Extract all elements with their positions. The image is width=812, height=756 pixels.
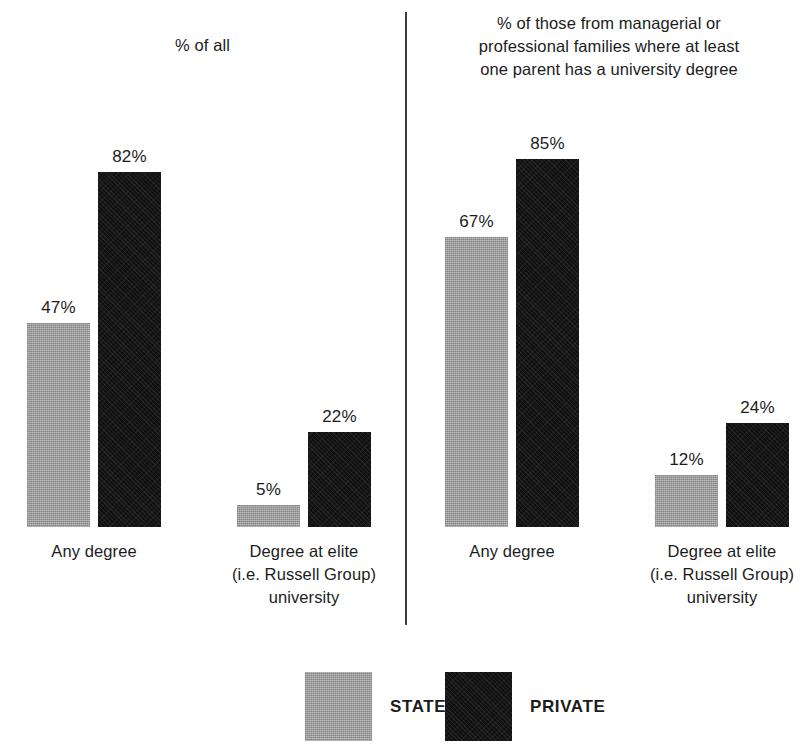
legend-label-state: STATE — [390, 697, 446, 717]
bar-group-any-degree-left: 47% 82% Any degree — [27, 0, 161, 527]
bar-value-label: 85% — [530, 134, 565, 154]
x-axis-label-any-degree-left: Any degree — [0, 540, 199, 563]
legend-item-state[interactable]: STATE — [305, 672, 446, 741]
bar-value-label: 67% — [459, 212, 494, 232]
legend-item-private[interactable]: PRIVATE — [445, 672, 605, 741]
legend-swatch-state-icon — [305, 672, 372, 741]
bar-value-label: 5% — [256, 480, 281, 500]
legend-label-private: PRIVATE — [530, 697, 605, 717]
x-axis-label-any-degree-right: Any degree — [407, 540, 617, 563]
legend-swatch-private-icon — [445, 672, 512, 741]
bar-private-elite-degree-left[interactable]: 22% — [308, 432, 371, 527]
bar-fill-private — [516, 159, 579, 527]
bar-value-label: 82% — [112, 147, 147, 167]
bar-state-any-degree-right[interactable]: 67% — [445, 237, 508, 527]
chart-panel-left: % of all 47% 82% Any degree 5% — [0, 0, 405, 630]
bar-private-any-degree-left[interactable]: 82% — [98, 172, 161, 527]
bar-fill-state — [237, 505, 300, 527]
grouped-bar-chart: % of all 47% 82% Any degree 5% — [0, 0, 812, 756]
bar-state-elite-degree-left[interactable]: 5% — [237, 505, 300, 527]
bar-fill-private — [308, 432, 371, 527]
bar-value-label: 12% — [669, 450, 704, 470]
x-axis-label-elite-degree-right: Degree at elite (i.e. Russell Group) uni… — [617, 540, 812, 609]
bar-private-elite-degree-right[interactable]: 24% — [726, 423, 789, 527]
bar-fill-state — [655, 475, 718, 527]
bar-state-any-degree-left[interactable]: 47% — [27, 323, 90, 527]
panel-right-plot: 67% 85% Any degree 12% 24% Degr — [406, 0, 812, 527]
bar-private-any-degree-right[interactable]: 85% — [516, 159, 579, 527]
chart-legend: STATE PRIVATE — [0, 672, 812, 756]
x-axis-label-elite-degree-left: Degree at elite (i.e. Russell Group) uni… — [199, 540, 409, 609]
bar-group-any-degree-right: 67% 85% Any degree — [445, 0, 579, 527]
bar-group-elite-degree-right: 12% 24% Degree at elite (i.e. Russell Gr… — [655, 0, 789, 527]
bar-fill-state — [27, 323, 90, 527]
bar-value-label: 47% — [41, 298, 76, 318]
bar-value-label: 22% — [322, 407, 357, 427]
bar-fill-private — [726, 423, 789, 527]
bar-value-label: 24% — [740, 398, 775, 418]
bar-state-elite-degree-right[interactable]: 12% — [655, 475, 718, 527]
chart-panel-right: % of those from managerial or profession… — [406, 0, 812, 630]
bar-fill-private — [98, 172, 161, 527]
bar-group-elite-degree-left: 5% 22% Degree at elite (i.e. Russell Gro… — [237, 0, 371, 527]
panel-left-plot: 47% 82% Any degree 5% 22% Degre — [0, 0, 405, 527]
bar-fill-state — [445, 237, 508, 527]
